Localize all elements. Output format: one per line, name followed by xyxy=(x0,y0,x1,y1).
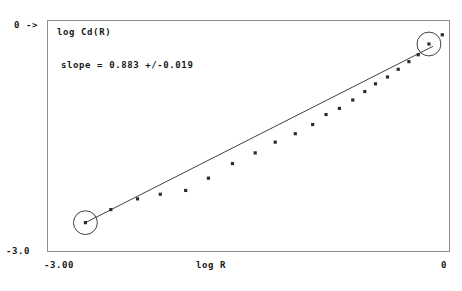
plot-canvas xyxy=(48,21,449,251)
regression-line xyxy=(85,46,433,222)
data-point xyxy=(363,90,366,93)
data-point xyxy=(427,42,430,45)
scaling-range-circles xyxy=(73,32,440,234)
x-axis-max-label: 0 xyxy=(441,261,447,270)
data-point xyxy=(407,60,410,63)
data-point xyxy=(294,132,297,135)
data-point xyxy=(324,113,327,116)
y-axis-max-label: 0 -> xyxy=(14,21,38,30)
data-point xyxy=(417,53,420,56)
data-point xyxy=(109,208,112,211)
x-axis-title: log R xyxy=(196,261,226,270)
data-point xyxy=(159,193,162,196)
x-axis-min-label: -3.00 xyxy=(44,261,74,270)
data-point xyxy=(386,75,389,78)
data-point xyxy=(254,151,257,154)
data-point xyxy=(338,107,341,110)
data-point xyxy=(184,189,187,192)
data-point xyxy=(84,221,87,224)
fit-line xyxy=(85,46,433,222)
data-point xyxy=(207,177,210,180)
data-point xyxy=(274,141,277,144)
data-point xyxy=(441,33,444,36)
data-point xyxy=(231,162,234,165)
scaling-plot: 0 -> -3.0 log Cd(R) slope = 0.883 +/-0.0… xyxy=(0,0,462,291)
y-axis-min-label: -3.0 xyxy=(6,247,30,256)
data-point xyxy=(374,82,377,85)
data-point xyxy=(397,68,400,71)
plot-area: log Cd(R) slope = 0.883 +/-0.019 xyxy=(47,20,450,252)
data-point xyxy=(351,98,354,101)
data-point xyxy=(136,197,139,200)
data-point xyxy=(311,123,314,126)
